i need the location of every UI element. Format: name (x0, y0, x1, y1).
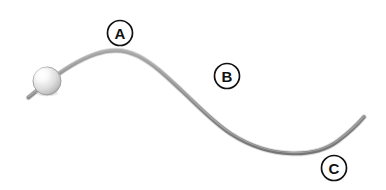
track-shadow (29, 51, 365, 154)
label-c-group: C (322, 156, 347, 181)
label-b-text: B (222, 68, 233, 85)
label-c-text: C (329, 160, 340, 177)
ball-highlight (33, 67, 61, 95)
label-b-group: B (215, 64, 240, 89)
ball-group (33, 67, 61, 96)
diagram-canvas: A B C (0, 0, 386, 190)
label-a-group: A (108, 21, 133, 46)
ball-track-diagram: A B C (0, 0, 386, 190)
label-a-text: A (115, 25, 126, 42)
